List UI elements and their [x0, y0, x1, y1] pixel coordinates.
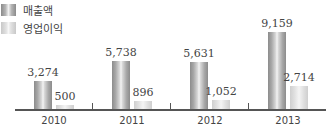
revenue-bar [112, 61, 130, 109]
revenue-bar [34, 81, 52, 109]
x-axis-tick [92, 103, 93, 110]
bar-chart: 3,27450020105,73889620115,6311,05220129,… [0, 0, 326, 131]
x-tick-label: 2010 [41, 115, 66, 126]
bar-value-label: 500 [55, 90, 76, 103]
bar-value-label: 896 [133, 86, 154, 99]
bar-value-label: 5,631 [183, 47, 215, 60]
x-tick-label: 2013 [275, 115, 300, 126]
operating-profit-bar [290, 86, 308, 109]
operating-profit-bar [56, 105, 74, 109]
bar-value-label: 5,738 [105, 46, 137, 59]
x-axis-tick [170, 103, 171, 110]
operating-profit-bar [134, 101, 152, 109]
bar-value-label: 1,052 [205, 85, 237, 98]
x-tick-label: 2011 [119, 115, 144, 126]
bar-value-label: 3,274 [27, 66, 59, 79]
x-axis-tick [248, 103, 249, 110]
x-tick-label: 2012 [197, 115, 222, 126]
bar-value-label: 2,714 [283, 71, 315, 84]
bar-value-label: 9,159 [261, 17, 293, 30]
operating-profit-bar [212, 100, 230, 109]
